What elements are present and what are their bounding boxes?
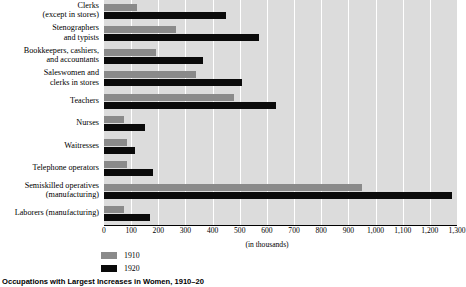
x-tick-label: 1,100 xyxy=(394,226,411,235)
category-label: Stenographersand typists xyxy=(0,23,99,42)
category-label: Waitresses xyxy=(0,141,99,150)
bar-group xyxy=(104,0,457,23)
category-label-line1: Semiskilled operatives xyxy=(25,181,99,190)
bar-1920 xyxy=(104,102,276,109)
x-tick-label: 0 xyxy=(102,226,106,235)
bar-group xyxy=(104,158,457,181)
category-label-line1: Telephone operators xyxy=(33,163,100,172)
bar-row: Semiskilled operatives(manufacturing) xyxy=(0,180,466,203)
category-label-line2: clerks in stores xyxy=(0,78,99,87)
x-tick-label: 200 xyxy=(153,226,164,235)
category-label-line2: (manufacturing) xyxy=(0,190,99,199)
bar-row: Laborers (manufacturing) xyxy=(0,203,466,226)
x-tick-label: 1,200 xyxy=(421,226,438,235)
bar-1910 xyxy=(104,116,124,123)
bar-group xyxy=(104,45,457,68)
x-tick-label: 600 xyxy=(261,226,272,235)
category-label-line1: Saleswomen and xyxy=(44,68,99,77)
bar-row: Saleswomen andclerks in stores xyxy=(0,68,466,91)
category-label-line2: and typists xyxy=(0,33,99,42)
bar-1920 xyxy=(104,124,145,131)
bar-group xyxy=(104,113,457,136)
x-tick-label: 900 xyxy=(343,226,354,235)
bar-1920 xyxy=(104,57,203,64)
category-label: Telephone operators xyxy=(0,163,99,172)
x-tick-label: 1,300 xyxy=(448,226,465,235)
category-label-line1: Laborers (manufacturing) xyxy=(15,208,99,217)
category-label-line1: Nurses xyxy=(76,118,99,127)
bar-1910 xyxy=(104,139,127,146)
bar-group xyxy=(104,135,457,158)
bar-row: Teachers xyxy=(0,90,466,113)
legend-label-1910: 1910 xyxy=(124,250,140,261)
chart-caption: Occupations with Largest Increases in Wo… xyxy=(2,277,204,286)
x-axis-title-text: (in thousands) xyxy=(245,240,288,249)
bar-group xyxy=(104,203,457,226)
bar-rows: Clerks(except in stores)Stenographersand… xyxy=(0,0,466,225)
category-label: Bookkeepers, cashiers,and accountants xyxy=(0,46,99,65)
bar-1920 xyxy=(104,34,259,41)
legend-swatch-1910 xyxy=(101,252,117,259)
bar-chart: Clerks(except in stores)Stenographersand… xyxy=(0,0,466,287)
category-label: Laborers (manufacturing) xyxy=(0,208,99,217)
x-axis-ticks: 01002003004005006007008009001,0001,1001,… xyxy=(0,226,466,240)
bar-row: Waitresses xyxy=(0,135,466,158)
bar-group xyxy=(104,90,457,113)
x-tick-label: 500 xyxy=(234,226,245,235)
bar-1920 xyxy=(104,192,452,199)
bar-row: Clerks(except in stores) xyxy=(0,0,466,23)
category-label-line2: (except in stores) xyxy=(0,10,99,19)
category-label-line1: Bookkeepers, cashiers, xyxy=(24,46,99,55)
x-tick-label: 400 xyxy=(207,226,218,235)
bar-row: Telephone operators xyxy=(0,158,466,181)
category-label: Teachers xyxy=(0,96,99,105)
x-axis-title: (in thousands) xyxy=(0,240,466,249)
legend-label-1920: 1920 xyxy=(124,263,140,274)
category-label-line1: Clerks xyxy=(78,1,99,10)
bar-1910 xyxy=(104,184,362,191)
category-label-line1: Waitresses xyxy=(64,141,99,150)
bar-1920 xyxy=(104,147,135,154)
bar-group xyxy=(104,68,457,91)
category-label: Clerks(except in stores) xyxy=(0,1,99,20)
category-label: Nurses xyxy=(0,118,99,127)
legend-swatch-1920 xyxy=(101,265,117,272)
x-tick-label: 800 xyxy=(316,226,327,235)
x-tick-label: 100 xyxy=(125,226,136,235)
bar-1920 xyxy=(104,79,242,86)
category-label-line2: and accountants xyxy=(0,55,99,64)
bar-1910 xyxy=(104,26,176,33)
x-tick-label: 700 xyxy=(288,226,299,235)
x-tick-label: 300 xyxy=(180,226,191,235)
bar-group xyxy=(104,23,457,46)
category-label: Semiskilled operatives(manufacturing) xyxy=(0,181,99,200)
bar-1920 xyxy=(104,12,226,19)
x-tick-label: 1,000 xyxy=(367,226,384,235)
category-label: Saleswomen andclerks in stores xyxy=(0,68,99,87)
bar-1920 xyxy=(104,169,153,176)
bar-1910 xyxy=(104,161,127,168)
category-label-line1: Teachers xyxy=(70,96,99,105)
bar-row: Nurses xyxy=(0,113,466,136)
bar-1920 xyxy=(104,214,150,221)
bar-1910 xyxy=(104,94,234,101)
bar-1910 xyxy=(104,49,156,56)
category-label-line1: Stenographers xyxy=(52,23,99,32)
bar-row: Stenographersand typists xyxy=(0,23,466,46)
bar-row: Bookkeepers, cashiers,and accountants xyxy=(0,45,466,68)
bar-1910 xyxy=(104,206,124,213)
bar-1910 xyxy=(104,4,137,11)
bar-group xyxy=(104,180,457,203)
bar-1910 xyxy=(104,71,196,78)
